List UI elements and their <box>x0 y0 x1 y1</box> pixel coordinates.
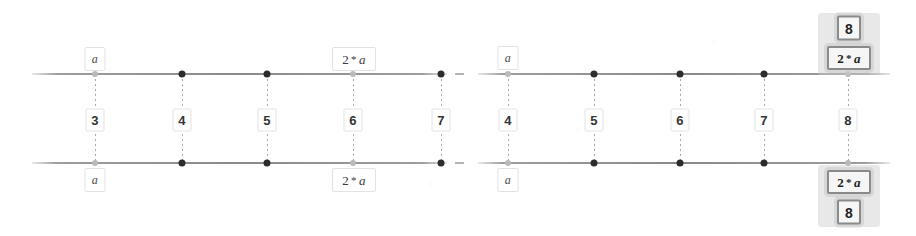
top-label-expr[interactable]: 2*a <box>332 47 376 71</box>
column-index[interactable]: 5 <box>258 109 277 132</box>
bottom-label-expr[interactable]: 2*a <box>827 170 871 194</box>
expr-coefficient: 2 <box>837 176 844 189</box>
right-panel: a 8 2*a 4 5 6 7 8 a 2*a 8 <box>458 0 916 236</box>
bottom-badge-eight[interactable]: 8 <box>837 200 861 225</box>
node-top <box>438 71 445 78</box>
node-bottom <box>350 160 356 166</box>
bottom-label-expr[interactable]: 2*a <box>332 168 376 192</box>
column-index[interactable]: 7 <box>755 109 774 132</box>
node-top <box>179 71 186 78</box>
rail-stub-top <box>455 73 464 75</box>
node-bottom <box>677 160 684 167</box>
left-panel: a 2*a 3 4 5 6 7 a 2*a <box>0 0 458 236</box>
column-index[interactable]: 5 <box>585 109 604 132</box>
top-badge-eight[interactable]: 8 <box>837 16 861 41</box>
column-index[interactable]: 8 <box>839 109 858 132</box>
bottom-label-a[interactable]: a <box>498 168 519 192</box>
node-bottom <box>761 160 768 167</box>
column-index[interactable]: 6 <box>344 109 363 132</box>
column-index[interactable]: 3 <box>86 109 105 132</box>
node-top <box>761 71 768 78</box>
bottom-rail <box>478 162 890 164</box>
node-top <box>677 71 684 78</box>
expr-coefficient: 2 <box>342 174 349 187</box>
node-bottom <box>92 160 98 166</box>
node-bottom <box>591 160 598 167</box>
column-index[interactable]: 4 <box>173 109 192 132</box>
top-label-a[interactable]: a <box>498 46 519 70</box>
expr-variable: a <box>359 174 366 187</box>
expr-variable: a <box>359 53 366 66</box>
top-label-expr[interactable]: 2*a <box>827 46 871 70</box>
rail-stub-bottom <box>455 162 464 164</box>
bottom-label-a[interactable]: a <box>85 168 106 192</box>
node-top <box>264 71 271 78</box>
expr-operator: * <box>846 177 852 188</box>
node-bottom <box>179 160 186 167</box>
expr-operator: * <box>351 54 357 65</box>
node-bottom <box>505 160 511 166</box>
column-index[interactable]: 7 <box>432 109 451 132</box>
node-bottom <box>264 160 271 167</box>
node-top <box>591 71 598 78</box>
expr-coefficient: 2 <box>342 53 349 66</box>
node-top <box>350 71 356 77</box>
expr-variable: a <box>854 52 861 65</box>
expr-operator: * <box>846 53 852 64</box>
node-top <box>505 71 511 77</box>
expr-operator: * <box>351 175 357 186</box>
expr-variable: a <box>854 176 861 189</box>
column-index[interactable]: 6 <box>671 109 690 132</box>
column-index[interactable]: 4 <box>499 109 518 132</box>
node-bottom <box>438 160 445 167</box>
node-top <box>92 71 98 77</box>
diagram-canvas: a 2*a 3 4 5 6 7 a 2*a <box>0 0 916 236</box>
expr-coefficient: 2 <box>837 52 844 65</box>
top-label-a[interactable]: a <box>85 47 106 71</box>
